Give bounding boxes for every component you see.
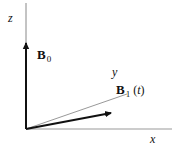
b1-symbol: B [116, 82, 125, 97]
coordinate-diagram [0, 0, 181, 149]
b0-symbol: B [37, 47, 46, 62]
y-axis [26, 94, 127, 129]
b1-vector-arrow [26, 113, 111, 129]
y-axis-label: y [112, 66, 117, 78]
b0-label: B0 [37, 48, 51, 61]
b1-argument-var: t [137, 83, 140, 97]
b0-subscript: 0 [47, 54, 52, 64]
b1-subscript: 1 [126, 89, 131, 99]
z-axis-label: z [8, 12, 13, 24]
x-axis-label: x [150, 133, 155, 145]
b1-argument: (t) [133, 83, 144, 97]
b1-label: B1(t) [116, 83, 145, 96]
